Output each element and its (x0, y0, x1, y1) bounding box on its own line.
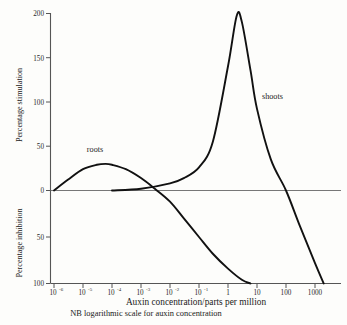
y-tick-label-50: 50 (37, 143, 45, 151)
x-tick-mantissa-7: 10 (253, 289, 261, 297)
x-axis-ticks (54, 284, 315, 289)
x-tick-mantissa-3: 10 (136, 289, 144, 297)
x-tick-label-group-1: 10 -5 (78, 287, 92, 297)
x-axis-title: Auxin concentration/parts per million (126, 297, 267, 307)
x-tick-label-group-6: 1 (226, 289, 230, 297)
y-tick-label-0: 0 (40, 187, 44, 195)
y-axis-title-upper: Percentage stimulation (15, 68, 24, 142)
chart-note: NB logarithmic scale for auxin concentra… (70, 309, 222, 318)
x-tick-label-group-2: 10 -4 (107, 287, 121, 297)
x-tick-label-group-5: 10 -1 (194, 287, 208, 297)
y-axis-title-lower: Percentage inhibition (15, 208, 24, 277)
y-axis-ticks-lower (46, 237, 51, 284)
x-tick-label-group-0: 10 -6 (49, 287, 63, 297)
x-tick-mantissa-2: 10 (107, 289, 115, 297)
x-tick-mantissa-4: 10 (165, 289, 173, 297)
x-tick-exponent-0: -6 (59, 287, 64, 292)
series-curve-shoots (112, 12, 324, 284)
x-tick-mantissa-1: 10 (78, 289, 86, 297)
y-tick-label-minus100: 100 (33, 280, 44, 288)
x-tick-mantissa-0: 10 (49, 289, 57, 297)
y-tick-label-150: 150 (33, 55, 44, 63)
x-tick-label-group-9: 1000 (308, 289, 323, 297)
series-label-shoots: shoots (262, 92, 283, 101)
chart-svg: 200 150 100 50 0 50 100 10 -6 10 -5 10 -… (0, 0, 347, 325)
y-tick-label-100: 100 (33, 99, 44, 107)
x-tick-label-group-8: 100 (281, 289, 292, 297)
x-tick-exponent-2: -4 (117, 287, 122, 292)
x-tick-exponent-3: -3 (146, 287, 151, 292)
x-tick-mantissa-9: 1000 (308, 289, 323, 297)
x-tick-mantissa-6: 1 (226, 289, 230, 297)
series-curve-roots (54, 164, 251, 284)
series-label-roots: roots (87, 145, 103, 154)
y-axis-ticks-upper (46, 14, 51, 191)
chart-figure: 200 150 100 50 0 50 100 10 -6 10 -5 10 -… (0, 0, 347, 325)
x-tick-exponent-5: -1 (204, 287, 209, 292)
x-tick-mantissa-8: 100 (281, 289, 292, 297)
x-tick-exponent-4: -2 (175, 287, 180, 292)
y-tick-label-minus50: 50 (37, 234, 45, 242)
x-tick-label-group-3: 10 -3 (136, 287, 150, 297)
x-tick-label-group-4: 10 -2 (165, 287, 179, 297)
x-tick-mantissa-5: 10 (194, 289, 202, 297)
x-tick-exponent-1: -5 (88, 287, 93, 292)
x-tick-label-group-7: 10 (253, 289, 261, 297)
y-tick-label-200: 200 (33, 10, 44, 18)
